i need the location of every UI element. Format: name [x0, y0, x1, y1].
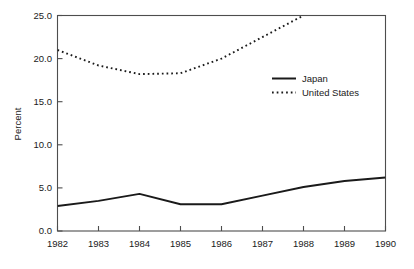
x-tick-label: 1987	[252, 238, 273, 249]
x-tick-label: 1984	[129, 238, 150, 249]
y-tick-label: 15.0	[34, 96, 53, 107]
y-axis-tick-labels: 0.0 5.0 10.0 15.0 20.0 25.0	[34, 10, 53, 237]
line-chart: 0.0 5.0 10.0 15.0 20.0 25.0 1982 1983 19…	[0, 0, 414, 269]
legend-label-japan: Japan	[302, 73, 328, 84]
x-tick-label: 1986	[211, 238, 232, 249]
x-tick-label: 1983	[88, 238, 109, 249]
y-tick-label: 20.0	[34, 53, 53, 64]
x-tick-label: 1985	[170, 238, 191, 249]
legend-label-united-states: United States	[302, 87, 359, 98]
x-tick-label: 1988	[293, 238, 314, 249]
y-axis-title: Percent	[12, 107, 23, 140]
x-axis-tick-labels: 1982 1983 1984 1985 1986 1987 1988 1989 …	[47, 238, 396, 249]
x-tick-label: 1990	[375, 238, 396, 249]
y-tick-label: 10.0	[34, 139, 53, 150]
y-tick-label: 5.0	[39, 182, 52, 193]
chart-figure: 0.0 5.0 10.0 15.0 20.0 25.0 1982 1983 19…	[0, 0, 414, 269]
x-tick-label: 1982	[47, 238, 68, 249]
x-tick-label: 1989	[334, 238, 355, 249]
y-tick-label: 25.0	[34, 10, 53, 21]
y-tick-label: 0.0	[39, 225, 52, 236]
